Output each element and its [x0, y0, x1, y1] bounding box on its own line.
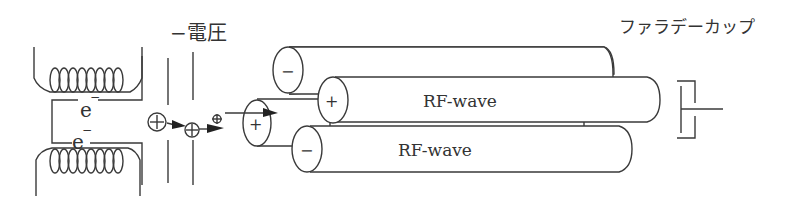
ion-trap-diagram: e − e − −電圧 − + — [0, 0, 803, 205]
rod-bottom-sign: − — [300, 141, 313, 160]
arrow-2-icon — [207, 124, 224, 133]
electron-charge-top: − — [90, 90, 100, 104]
ion-source: e − e − — [34, 47, 142, 196]
rf-label-top: RF-wave — [423, 91, 497, 111]
rod-entrance-sign: + — [249, 115, 262, 134]
rod-middle-sign: + — [325, 92, 338, 111]
bottom-coil-icon — [50, 149, 123, 173]
voltage-electrodes: −電圧 — [168, 21, 227, 185]
ions — [148, 113, 224, 137]
top-coil-icon — [50, 68, 123, 92]
arrow-1-icon — [172, 120, 186, 129]
electron-charge-bottom: − — [82, 123, 92, 137]
rod-bottom-negative: − RF-wave — [292, 122, 632, 172]
faraday-cup-label: ファラデーカップ — [619, 17, 755, 37]
bottom-housing — [36, 148, 140, 196]
rf-label-bottom: RF-wave — [398, 140, 472, 160]
voltage-label: −電圧 — [170, 21, 227, 45]
faraday-cup-top — [677, 81, 695, 103]
rod-middle-positive: + RF-wave — [318, 77, 660, 123]
faraday-cup-bottom — [677, 116, 695, 138]
rod-top-sign: − — [281, 62, 294, 81]
